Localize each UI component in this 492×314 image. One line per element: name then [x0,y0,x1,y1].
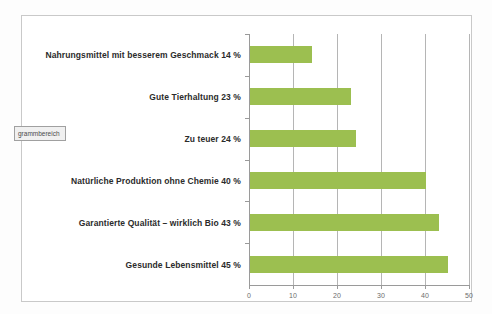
category-axis-line [249,285,469,286]
gridline-50 [469,34,470,285]
tick-mark-40 [425,285,426,289]
tick-label-50: 50 [454,292,484,299]
bar[interactable] [250,256,448,273]
tick-mark-50 [469,285,470,289]
category-label: Gesunde Lebensmittel 45 % [26,260,241,270]
tick-mark-30 [381,285,382,289]
category-label: Nahrungsmittel mit besserem Geschmack 14… [26,50,241,60]
gridline-20 [337,34,338,285]
category-label: Natürliche Produktion ohne Chemie 40 % [26,176,241,186]
category-tick [245,34,249,35]
gridline-0 [249,34,250,285]
gridline-30 [381,34,382,285]
bar[interactable] [250,214,439,231]
tick-mark-10 [293,285,294,289]
category-tick [245,76,249,77]
tick-mark-0 [249,285,250,289]
tick-label-20: 20 [322,292,352,299]
bar[interactable] [250,172,426,189]
bar[interactable] [250,88,351,105]
plot-area: 01020304050 Nahrungsmittel mit besserem … [249,34,469,298]
tick-mark-20 [337,285,338,289]
gridline-40 [425,34,426,285]
tick-label-40: 40 [410,292,440,299]
category-label: Gute Tierhaltung 23 % [26,92,241,102]
category-tick [245,201,249,202]
category-tick [245,243,249,244]
tick-label-0: 0 [234,292,264,299]
chart-area-tooltip: grammbereich [14,126,66,141]
bar[interactable] [250,130,356,147]
category-tick [245,118,249,119]
category-tick [245,160,249,161]
chart-frame[interactable]: 01020304050 Nahrungsmittel mit besserem … [21,15,472,302]
category-label: Garantierte Qualität – wirklich Bio 43 % [26,218,241,228]
gridline-10 [293,34,294,285]
bar[interactable] [250,46,312,63]
tick-label-10: 10 [278,292,308,299]
tick-label-30: 30 [366,292,396,299]
